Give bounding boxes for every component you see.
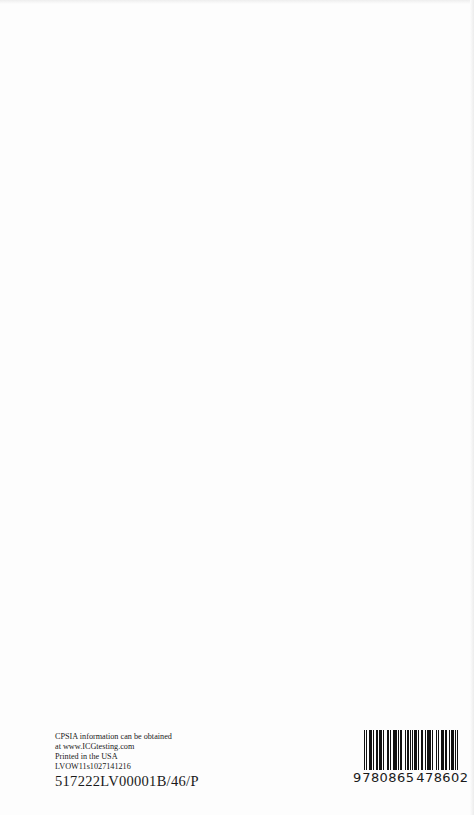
cpsia-line: CPSIA information can be obtained xyxy=(55,732,199,742)
website-line: at www.ICGtesting.com xyxy=(55,742,199,752)
barcode-group-2: 478602 xyxy=(415,770,469,786)
lot-code-line: LVOW11s1027141216 xyxy=(55,762,199,772)
barcode-first-digit: 9 xyxy=(353,770,361,786)
barcode-group-1: 780865 xyxy=(361,770,415,786)
barcode-digits: 9 780865 478602 xyxy=(353,770,466,786)
page-right-edge xyxy=(470,0,474,815)
isbn-barcode: 9 780865 478602 xyxy=(353,730,466,786)
print-job-code: 517222LV00001B/46/P xyxy=(55,773,199,789)
printer-imprint: CPSIA information can be obtained at www… xyxy=(55,732,199,789)
barcode-bars xyxy=(364,730,466,775)
printed-in-line: Printed in the USA xyxy=(55,752,199,762)
page-top-edge xyxy=(0,0,474,4)
